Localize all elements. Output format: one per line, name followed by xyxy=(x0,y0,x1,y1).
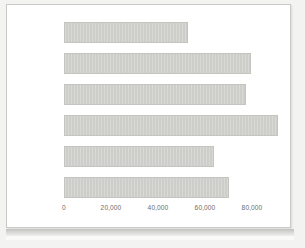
x-tick-label: 40,000 xyxy=(148,204,169,211)
x-tick-label: 0 xyxy=(62,204,66,211)
bar-chart: 北海道・東北 関東 中部・甲信越 関西 中国・四国 九州・沖縄 xyxy=(7,5,290,227)
bar-row: 中国・四国 xyxy=(7,143,290,169)
x-tick-label: 60,000 xyxy=(195,204,216,211)
bar[interactable] xyxy=(64,84,246,105)
bar[interactable] xyxy=(64,53,251,74)
bar[interactable] xyxy=(64,146,214,167)
bar[interactable] xyxy=(64,22,188,43)
bar-row: 関西 xyxy=(7,112,290,138)
scanned-page-background: 北海道・東北 関東 中部・甲信越 関西 中国・四国 九州・沖縄 xyxy=(0,0,305,248)
bar-row: 関東 xyxy=(7,50,290,76)
scanner-artifact-band xyxy=(6,229,294,236)
bar-row: 北海道・東北 xyxy=(7,19,290,45)
bar[interactable] xyxy=(64,177,229,198)
x-tick-label: 20,000 xyxy=(101,204,122,211)
bar-row: 九州・沖縄 xyxy=(7,174,290,200)
x-tick-label: 80,000 xyxy=(242,204,263,211)
scanner-artifact-band-lower xyxy=(6,236,294,240)
bar-row: 中部・甲信越 xyxy=(7,81,290,107)
chart-paper: 北海道・東北 関東 中部・甲信越 関西 中国・四国 九州・沖縄 xyxy=(6,4,291,228)
bar[interactable] xyxy=(64,115,278,136)
